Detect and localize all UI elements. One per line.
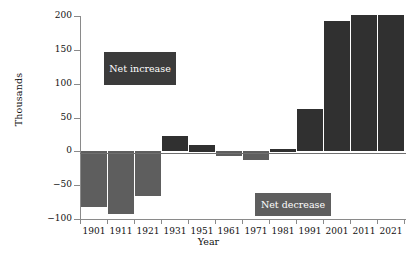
y-axis-tick-label: −100 (4, 213, 72, 223)
x-axis-tick (323, 219, 324, 224)
bar-1981 (270, 149, 296, 152)
y-axis-tick-label: 50 (4, 112, 72, 122)
x-axis-title: Year (0, 236, 417, 247)
y-axis-tick-label-wrap: 0 (0, 151, 72, 152)
bar-1951 (189, 145, 215, 152)
bar-1911 (108, 151, 134, 214)
y-axis-tick (74, 118, 81, 119)
y-axis-tick-label: 200 (4, 10, 72, 20)
zero-baseline (80, 153, 406, 154)
x-axis-tick (188, 219, 189, 224)
y-axis-tick-label-wrap: −50 (0, 185, 72, 186)
x-axis-tick (296, 219, 297, 224)
annotation-net-increase: Net increase (104, 52, 176, 85)
x-axis-tick (134, 219, 135, 224)
x-axis-tick (350, 219, 351, 224)
y-axis-tick-label: −50 (4, 179, 72, 189)
bar-2021 (378, 15, 404, 151)
y-axis-tick-label: 150 (4, 44, 72, 54)
y-axis-tick-label-wrap: 100 (0, 84, 72, 85)
y-axis-tick (74, 151, 81, 152)
y-axis-title: Thousands (13, 60, 24, 140)
x-axis-tick (161, 219, 162, 224)
annotation-net-decrease: Net decrease (255, 193, 331, 216)
bar-2001 (324, 21, 350, 151)
bar-1931 (162, 136, 188, 151)
x-axis-tick (215, 219, 216, 224)
x-axis-line (80, 219, 406, 220)
bar-1901 (81, 151, 107, 207)
x-axis-tick (80, 219, 81, 224)
x-axis-tick (269, 219, 270, 224)
annotation-net-increase-label: Net increase (109, 63, 171, 74)
y-axis-tick (74, 50, 81, 51)
x-axis-tick-label: 2021 (371, 226, 411, 236)
x-axis-tick (107, 219, 108, 224)
y-axis-tick (74, 16, 81, 17)
y-axis-tick-label-wrap: 200 (0, 16, 72, 17)
y-axis-tick (74, 185, 81, 186)
y-axis-tick-label-wrap: 150 (0, 50, 72, 51)
y-axis-tick-label-wrap: 50 (0, 118, 72, 119)
y-axis-tick (74, 84, 81, 85)
chart-root: Thousands −100−50050100150200 1901191119… (0, 0, 417, 258)
x-axis-tick (242, 219, 243, 224)
x-axis-tick (404, 219, 405, 224)
x-axis-tick (377, 219, 378, 224)
y-axis-tick-label-wrap: −100 (0, 219, 72, 220)
annotation-net-decrease-label: Net decrease (261, 199, 325, 210)
bar-2011 (351, 15, 377, 151)
bar-1991 (297, 109, 323, 151)
y-axis-tick-label: 100 (4, 78, 72, 88)
bar-1921 (135, 151, 161, 196)
y-axis-tick-label: 0 (4, 145, 72, 155)
